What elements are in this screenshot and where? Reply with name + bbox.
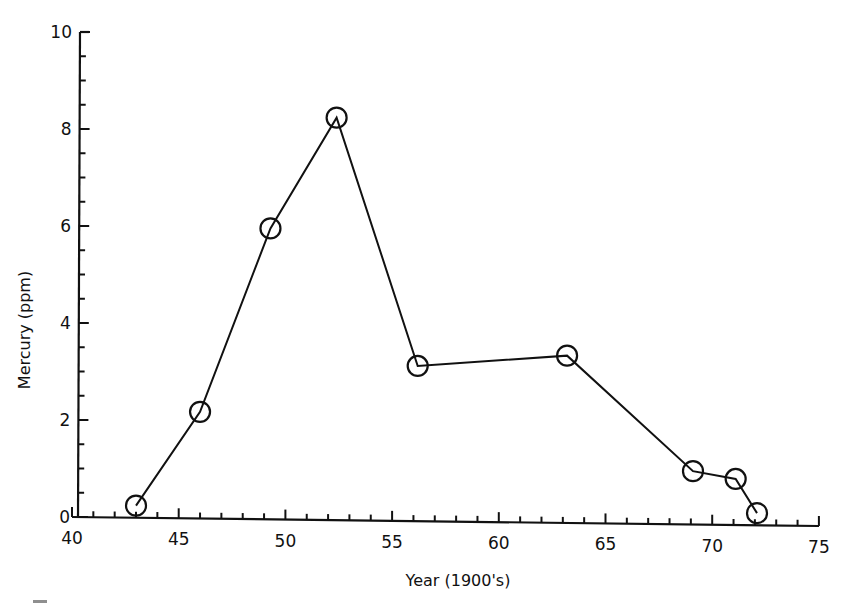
data-point-marker [683,461,703,481]
y-axis-title: Mercury (ppm) [15,271,34,389]
line-chart: 4045505560657075 0246810 Year (1900's) M… [0,0,850,607]
data-point-marker [557,346,577,366]
y-axis-ticks: 0246810 [50,22,90,527]
y-tick-label: 6 [60,216,71,236]
cropped-caption-fragment [33,600,47,603]
y-tick-label: 8 [61,119,72,139]
data-point-marker [747,503,767,523]
data-point-marker [327,108,347,128]
x-tick-label: 55 [381,532,403,552]
x-axis [72,517,819,526]
x-tick-label: 60 [488,533,510,553]
mercury-series-line [136,118,757,513]
y-tick-label: 2 [60,410,71,430]
mercury-series-markers [126,108,767,523]
x-axis-title: Year (1900's) [405,571,511,590]
x-tick-label: 45 [168,529,190,549]
data-point-marker [260,218,280,238]
x-tick-label: 50 [275,531,297,551]
x-axis-ticks: 4045505560657075 [61,507,830,557]
y-tick-label: 4 [60,313,71,333]
x-tick-label: 75 [808,537,830,557]
data-point-marker [726,469,746,489]
y-tick-label: 0 [59,507,70,527]
x-tick-label: 40 [61,528,83,548]
data-point-marker [126,496,146,516]
x-tick-label: 65 [595,534,617,554]
data-point-marker [408,356,428,376]
y-tick-label: 10 [50,22,72,42]
x-tick-label: 70 [701,536,723,556]
data-point-marker [190,402,210,422]
